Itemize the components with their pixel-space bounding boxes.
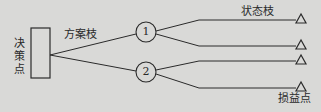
alternative-branch-label: 方案枝 (64, 29, 97, 40)
decision-point-label: 决策点 (14, 37, 26, 76)
alternative-branch-2 (50, 55, 136, 71)
chance-node-1-label: 1 (136, 22, 156, 42)
payoff-node-2 (296, 40, 306, 49)
state-branch-2b (156, 74, 296, 88)
state-branch-2a (156, 61, 296, 70)
chance-node-2-label: 2 (136, 62, 156, 82)
state-branch-label: 状态枝 (241, 6, 274, 17)
state-branch-1b (156, 34, 296, 46)
payoff-point-label: 损益点 (278, 93, 311, 104)
payoff-node-4 (296, 82, 306, 91)
state-branch-1a (156, 20, 296, 31)
decision-node (31, 28, 50, 78)
payoff-node-1 (296, 14, 306, 23)
payoff-node-3 (296, 55, 306, 64)
